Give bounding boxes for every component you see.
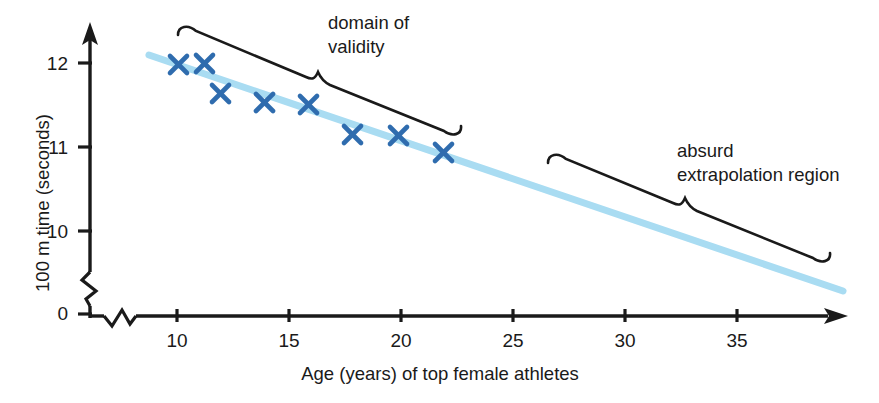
x-axis-break-mark xyxy=(104,310,136,326)
annotation-absurd-region-line2: extrapolation region xyxy=(677,164,840,185)
x-axis-title: Age (years) of top female athletes xyxy=(240,363,640,384)
annotation-domain-of-validity-line2: validity xyxy=(328,36,385,57)
annotation-domain-of-validity-line1: domain of xyxy=(328,12,409,33)
y-axis-title-wrapper: 100 m time (seconds) xyxy=(32,88,54,318)
x-axis xyxy=(90,308,848,326)
x-tick-label-20: 20 xyxy=(381,330,421,352)
y-axis-title: 100 m time (seconds) xyxy=(32,88,54,318)
data-point-marker xyxy=(344,126,361,143)
annotation-absurd-region-line1: absurd xyxy=(677,140,734,161)
x-tick-label-15: 15 xyxy=(269,330,309,352)
y-axis-break-mark xyxy=(82,272,96,306)
x-tick-label-30: 30 xyxy=(605,330,645,352)
x-tick-label-10: 10 xyxy=(157,330,197,352)
y-axis xyxy=(78,22,98,318)
chart-figure: 12 11 10 0 10 15 20 25 30 35 Age (years)… xyxy=(0,0,879,403)
data-point-marker xyxy=(196,55,213,72)
x-tick-label-35: 35 xyxy=(717,330,757,352)
data-point-marker xyxy=(212,85,229,102)
y-tick-label-12: 12 xyxy=(40,53,68,75)
x-tick-label-25: 25 xyxy=(493,330,533,352)
